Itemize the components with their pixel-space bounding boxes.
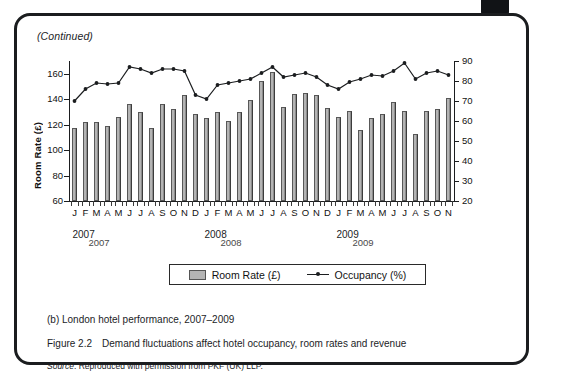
occupancy-point [205, 97, 209, 101]
x-tick-label: D [324, 207, 331, 218]
y-tick-label-right: 90 [462, 55, 473, 66]
occupancy-point [172, 67, 176, 71]
x-tick-label: A [104, 207, 110, 218]
x-tick-label: F [83, 207, 89, 218]
y-tick-right [454, 161, 459, 162]
x-tick [430, 201, 431, 206]
y-tick-right [454, 121, 459, 122]
x-tick [236, 201, 237, 206]
x-tick-label: J [336, 207, 341, 218]
x-tick [188, 201, 189, 206]
occupancy-point [249, 77, 253, 81]
x-tick [265, 201, 266, 206]
x-tick-label: A [236, 207, 242, 218]
x-tick-label: N [445, 207, 452, 218]
x-tick [375, 201, 376, 206]
x-tick [199, 201, 200, 206]
x-tick-label: O [434, 207, 441, 218]
y-tick-right [454, 81, 459, 82]
x-tick [144, 201, 145, 206]
x-tick [126, 201, 127, 206]
legend-item-room-rate: Room Rate (£) [189, 269, 281, 281]
occupancy-point [128, 65, 132, 69]
occupancy-point [447, 73, 451, 77]
x-tick-label: O [302, 207, 309, 218]
y-tick-right [454, 141, 459, 142]
x-tick [313, 201, 314, 206]
x-tick [419, 201, 420, 206]
occupancy-point [271, 65, 275, 69]
x-tick [390, 201, 391, 206]
occupancy-point [392, 69, 396, 73]
y-tick-label-left: 120 [39, 119, 63, 130]
figure-title: Demand fluctuations affect hotel occupan… [102, 338, 406, 349]
x-tick-label: M [225, 207, 233, 218]
x-tick [225, 201, 226, 206]
x-tick [133, 201, 134, 206]
x-tick [115, 201, 116, 206]
y-axis-right-line [454, 61, 455, 201]
x-tick-label: J [259, 207, 264, 218]
x-tick-label: S [291, 207, 297, 218]
x-tick-label: S [423, 207, 429, 218]
source-note: Source: Reproduced with permission from … [47, 361, 263, 371]
y-tick-label-right: 80 [462, 75, 473, 86]
x-tick [302, 201, 303, 206]
x-tick [254, 201, 255, 206]
x-tick-label: J [72, 207, 77, 218]
x-axis-year-label-duplicate: 2008 [221, 237, 242, 248]
occupancy-point [359, 77, 363, 81]
x-tick [221, 201, 222, 206]
occupancy-point [381, 74, 385, 78]
x-tick [78, 201, 79, 206]
x-tick [368, 201, 369, 206]
y-tick-label-right: 50 [462, 135, 473, 146]
subfigure-caption: (b) London hotel performance, 2007–2009 [47, 314, 234, 325]
legend-item-occupancy: Occupancy (%) [307, 269, 407, 281]
x-tick [104, 201, 105, 206]
occupancy-point [73, 99, 77, 103]
occupancy-point [260, 71, 264, 75]
x-tick-label: J [204, 207, 209, 218]
y-tick-label-right: 20 [462, 195, 473, 206]
x-tick [243, 201, 244, 206]
chart-figure: Room Rate (£) 6080100120140160 203040506… [23, 49, 523, 274]
x-tick-label: M [379, 207, 387, 218]
x-tick [441, 201, 442, 206]
occupancy-point [436, 69, 440, 73]
x-tick [291, 201, 292, 206]
figure-box: (Continued) Room Rate (£) 60801001201401… [14, 13, 529, 365]
occupancy-point [403, 61, 407, 65]
y-tick-label-left: 100 [39, 144, 63, 155]
legend-label-occupancy: Occupancy (%) [335, 269, 407, 281]
y-tick-right [454, 201, 459, 202]
x-tick [232, 201, 233, 206]
x-tick-label: D [192, 207, 199, 218]
x-tick [71, 201, 72, 206]
x-tick [357, 201, 358, 206]
y-tick-label-left: 60 [39, 195, 63, 206]
x-tick [401, 201, 402, 206]
x-tick-label: J [138, 207, 143, 218]
y-tick-right [454, 61, 459, 62]
x-tick [159, 201, 160, 206]
y-tick-right [454, 101, 459, 102]
occupancy-point [84, 87, 88, 91]
x-tick [203, 201, 204, 206]
x-tick [214, 201, 215, 206]
x-tick-label: F [347, 207, 353, 218]
x-tick [346, 201, 347, 206]
y-tick-label-right: 60 [462, 115, 473, 126]
y-tick-label-right: 30 [462, 175, 473, 186]
x-tick [148, 201, 149, 206]
x-tick [445, 201, 446, 206]
x-tick-label: J [402, 207, 407, 218]
occupancy-point [337, 87, 341, 91]
x-tick [177, 201, 178, 206]
y-tick-left [64, 201, 69, 202]
x-tick [379, 201, 380, 206]
x-tick-label: S [159, 207, 165, 218]
x-tick-label: J [391, 207, 396, 218]
occupancy-point [414, 77, 418, 81]
x-axis-year-label-duplicate: 2009 [353, 237, 374, 248]
